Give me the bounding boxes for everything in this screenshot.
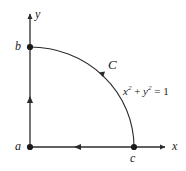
point-dot-a (27, 144, 33, 150)
circle-equation-label: x2 + y2 = 1 (123, 86, 169, 97)
point-dot-b (27, 44, 33, 50)
y-axis-label: y (35, 8, 40, 20)
point-label-a: a (15, 140, 21, 152)
arc-curve-C (30, 47, 134, 147)
segment-ca-direction-arrow-icon (74, 144, 81, 150)
curve-label-C: C (108, 58, 117, 71)
equation-equals-one: = 1 (152, 85, 169, 97)
point-label-c: c (130, 152, 135, 164)
point-dot-c (131, 144, 137, 150)
x-axis-label: x (172, 140, 177, 152)
equation-plus: + (131, 85, 143, 97)
point-label-b: b (15, 40, 21, 52)
math-figure: y x b a c C x2 + y2 = 1 (0, 0, 186, 171)
segment-ab-direction-arrow-icon (27, 96, 33, 103)
